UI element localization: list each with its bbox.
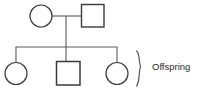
- square-male-parent[interactable]: [82, 5, 105, 28]
- pedigree-canvas: Offspring: [0, 0, 200, 89]
- generation-children: [5, 62, 128, 86]
- circle-female-child-left[interactable]: [5, 63, 27, 85]
- offspring-label: Offspring: [152, 61, 190, 72]
- square-male-child-center[interactable]: [57, 62, 81, 86]
- curly-brace-icon: [137, 51, 141, 86]
- circle-female-parent[interactable]: [30, 5, 52, 27]
- circle-female-child-right[interactable]: [106, 63, 128, 85]
- pedigree-diagram: Offspring: [0, 0, 200, 89]
- offspring-annotation: Offspring: [137, 51, 191, 86]
